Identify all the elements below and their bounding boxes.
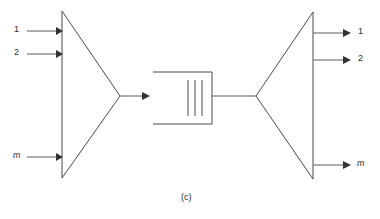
demultiplexer-output-label-m: m	[357, 159, 365, 168]
multiplexer-shape	[62, 11, 120, 178]
demultiplexer-upper-edge	[256, 12, 313, 96]
multiplexer-input-label-m: m	[13, 151, 21, 160]
demultiplexer-output-label-1: 1	[358, 27, 363, 36]
figure-container: 1 2 m 1 2 m (c)	[0, 0, 380, 219]
multiplexer-input-label-2: 2	[14, 48, 19, 57]
demultiplexer-output-arrow-m	[313, 161, 351, 169]
multiplexer-lower-edge	[62, 96, 120, 178]
demultiplexer-output-arrow-1	[313, 29, 351, 37]
multiplexer-input-arrow-m	[27, 153, 63, 161]
demultiplexer-output-arrow-2	[313, 56, 351, 64]
demultiplexer-lower-edge	[256, 96, 313, 179]
diagram-canvas	[0, 0, 380, 219]
multiplexer-upper-edge	[62, 11, 120, 96]
transmission-medium-shape	[153, 72, 212, 124]
multiplexer-input-arrow-2	[27, 50, 63, 58]
multiplexer-input-label-1: 1	[14, 25, 19, 34]
multiplexer-input-arrow-1	[27, 27, 63, 35]
demultiplexer-shape	[256, 12, 313, 179]
demultiplexer-output-label-2: 2	[358, 54, 363, 63]
figure-caption: (c)	[181, 192, 192, 202]
multiplexer-to-medium-arrow	[120, 92, 150, 100]
